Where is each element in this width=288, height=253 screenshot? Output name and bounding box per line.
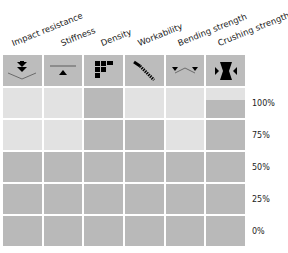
bending-icon (166, 55, 205, 86)
cell-crushing-0 (206, 216, 245, 246)
cell-stiffness-75 (44, 120, 83, 150)
density-icon (84, 55, 123, 86)
level-row-0 (3, 216, 245, 246)
cell-workability-50 (125, 152, 164, 182)
cell-crushing-100 (206, 88, 245, 118)
cell-density-0 (84, 216, 123, 246)
cell-impact-100 (3, 88, 42, 118)
level-row-50 (3, 152, 245, 182)
level-row-100 (3, 88, 245, 118)
cell-workability-0 (125, 216, 164, 246)
cell-stiffness-50 (44, 152, 83, 182)
level-label-25: 25% (252, 195, 270, 204)
header-stiffness: Stiffness (59, 25, 97, 48)
cell-density-50 (84, 152, 123, 182)
stiffness-icon (44, 55, 83, 86)
cell-density-25 (84, 184, 123, 214)
level-label-100: 100% (252, 99, 275, 108)
cell-density-100 (84, 88, 123, 118)
cell-stiffness-25 (44, 184, 83, 214)
cell-bending-100 (166, 88, 205, 118)
cell-workability-75 (125, 120, 164, 150)
crushing-icon (206, 55, 245, 86)
cell-impact-50 (3, 152, 42, 182)
header-crushing-strength: Crushing strength (216, 10, 288, 48)
cell-crushing-50 (206, 152, 245, 182)
cell-stiffness-100 (44, 88, 83, 118)
level-row-25 (3, 184, 245, 214)
level-label-0: 0% (252, 227, 265, 236)
cell-impact-25 (3, 184, 42, 214)
level-label-75: 75% (252, 131, 270, 140)
cell-crushing-100-empty (206, 88, 245, 100)
cell-workability-25 (125, 184, 164, 214)
cell-crushing-25 (206, 184, 245, 214)
workability-icon (125, 55, 164, 86)
icon-row (3, 55, 245, 86)
cell-bending-25 (166, 184, 205, 214)
cell-crushing-100-filled (206, 100, 245, 118)
cell-bending-75 (166, 120, 205, 150)
cell-impact-75 (3, 120, 42, 150)
cell-bending-0 (166, 216, 205, 246)
header-density: Density (99, 27, 133, 48)
level-row-75 (3, 120, 245, 150)
cell-workability-100 (125, 88, 164, 118)
cell-stiffness-0 (44, 216, 83, 246)
cell-density-75 (84, 120, 123, 150)
cell-impact-0 (3, 216, 42, 246)
header-workability: Workability (136, 21, 184, 48)
level-label-50: 50% (252, 163, 270, 172)
cell-bending-50 (166, 152, 205, 182)
property-grid (3, 55, 245, 248)
cell-crushing-75 (206, 120, 245, 150)
impact-icon (3, 55, 42, 86)
